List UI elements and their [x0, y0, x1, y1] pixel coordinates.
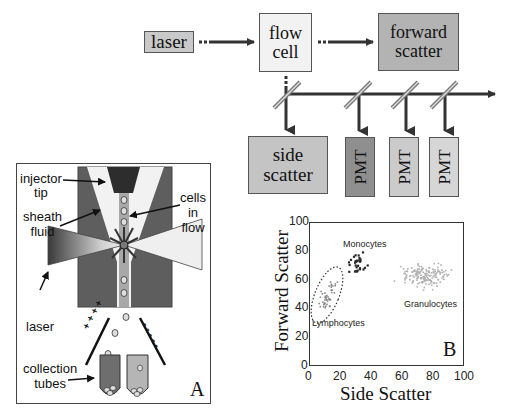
data-point [362, 251, 364, 253]
data-point [326, 295, 328, 297]
data-point [437, 267, 439, 269]
data-point [424, 280, 426, 282]
data-point [367, 264, 369, 266]
data-point [327, 296, 329, 298]
data-point [322, 293, 324, 295]
data-point [411, 267, 413, 269]
data-point [409, 279, 411, 281]
data-point [331, 284, 333, 286]
y-tick-80: 80 [295, 243, 308, 257]
data-point [335, 283, 337, 285]
data-point [441, 269, 443, 271]
data-point [443, 276, 445, 278]
data-point [436, 282, 438, 284]
data-point [441, 272, 443, 274]
data-point [416, 279, 418, 281]
data-point [441, 278, 443, 280]
data-point [322, 301, 324, 303]
data-point [332, 289, 334, 291]
data-point [318, 303, 320, 305]
data-point [451, 269, 453, 271]
data-point [439, 273, 441, 275]
data-point [438, 263, 440, 265]
data-point [436, 285, 438, 287]
data-point [433, 276, 435, 278]
data-point [404, 271, 406, 273]
data-point [428, 267, 430, 269]
data-point [323, 306, 325, 308]
data-point [434, 271, 436, 273]
data-point [420, 278, 422, 280]
granulocytes-label: Granulocytes [404, 299, 457, 309]
data-point [431, 272, 433, 274]
data-point [420, 271, 422, 273]
x-tick-40: 40 [364, 369, 377, 383]
data-point [432, 277, 434, 279]
data-point [334, 292, 336, 294]
data-point [325, 307, 327, 309]
data-point [330, 299, 332, 301]
data-point [324, 303, 326, 305]
data-point [432, 268, 434, 270]
data-point [440, 281, 442, 283]
data-point [416, 271, 418, 273]
data-point [445, 270, 447, 272]
data-point [433, 263, 435, 265]
data-point [419, 269, 421, 271]
data-point [362, 268, 364, 270]
data-point [417, 264, 419, 266]
data-point [404, 277, 406, 279]
data-point [412, 282, 414, 284]
data-point [329, 306, 331, 308]
data-point [400, 266, 402, 268]
data-point [422, 281, 424, 283]
data-point [431, 285, 433, 287]
data-point [358, 257, 360, 259]
data-point [407, 268, 409, 270]
x-tick-100: 100 [454, 369, 474, 383]
x-tick-80: 80 [426, 369, 439, 383]
y-tick-100: 100 [289, 214, 309, 228]
data-point [320, 291, 322, 293]
scatter-plot [0, 0, 508, 418]
data-point [356, 260, 358, 262]
data-point [350, 259, 352, 261]
data-point [423, 276, 425, 278]
data-point [328, 285, 330, 287]
data-point [353, 256, 355, 258]
y-tick-40: 40 [295, 300, 308, 314]
data-point [428, 280, 430, 282]
data-point [348, 271, 350, 273]
data-point [325, 305, 327, 307]
data-point [417, 269, 419, 271]
x-tick-20: 20 [333, 369, 346, 383]
data-point [406, 277, 408, 279]
data-point [432, 289, 434, 291]
data-point [404, 273, 406, 275]
data-point [418, 276, 420, 278]
data-point [434, 274, 436, 276]
data-point [418, 272, 420, 274]
data-point [404, 282, 406, 284]
data-point [349, 264, 351, 266]
data-point [435, 277, 437, 279]
data-point [417, 273, 419, 275]
data-point [358, 254, 360, 256]
data-point [422, 272, 424, 274]
x-tick-60: 60 [395, 369, 408, 383]
data-point [326, 299, 328, 301]
data-point [437, 269, 439, 271]
data-point [326, 304, 328, 306]
data-point [348, 261, 350, 263]
data-point [420, 274, 422, 276]
y-tick-60: 60 [295, 272, 308, 286]
data-point [330, 286, 332, 288]
data-point [406, 275, 408, 277]
data-point [430, 282, 432, 284]
data-point [320, 297, 322, 299]
data-point [419, 266, 421, 268]
data-point [425, 283, 427, 285]
data-point [425, 269, 427, 271]
data-point [444, 274, 446, 276]
data-point [320, 306, 322, 308]
